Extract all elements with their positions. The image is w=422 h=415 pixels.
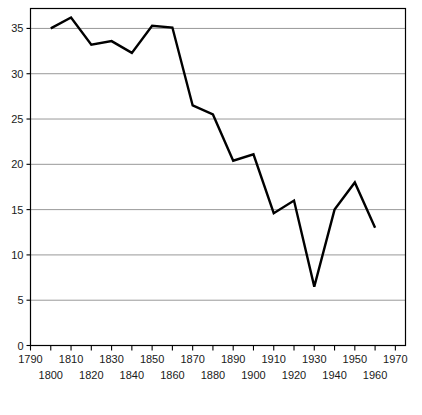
y-tick-label-10: 10 <box>11 249 23 261</box>
x-tick-label-1970: 1970 <box>383 353 407 365</box>
y-tick-label-25: 25 <box>11 113 23 125</box>
x-tick-label-1870: 1870 <box>180 353 204 365</box>
y-tick-label-35: 35 <box>11 22 23 34</box>
x-tick-label-1960: 1960 <box>363 369 387 381</box>
x-tick-label-1860: 1860 <box>160 369 184 381</box>
x-tick-label-1790: 1790 <box>18 353 42 365</box>
x-tick-label-1920: 1920 <box>282 369 306 381</box>
line-chart: 51015202530350 1790181018301850187018901… <box>0 0 422 415</box>
x-tick-label-1880: 1880 <box>201 369 225 381</box>
x-axis-tick-labels-upper-row: 1790181018301850187018901910193019501970 <box>18 353 407 365</box>
x-tick-label-1840: 1840 <box>120 369 144 381</box>
x-axis-tick-labels-lower-row: 180018201840186018801900192019401960 <box>39 369 388 381</box>
x-tick-label-1900: 1900 <box>241 369 265 381</box>
data-series-line <box>51 18 375 287</box>
x-tick-label-1800: 1800 <box>39 369 63 381</box>
y-tick-label-5: 5 <box>17 294 23 306</box>
y-tick-label-20: 20 <box>11 158 23 170</box>
x-tick-label-1890: 1890 <box>221 353 245 365</box>
y-axis-tick-labels: 51015202530350 <box>11 22 23 351</box>
x-tick-label-1930: 1930 <box>302 353 326 365</box>
x-tick-label-1830: 1830 <box>99 353 123 365</box>
x-tick-label-1940: 1940 <box>322 369 346 381</box>
y-tick-label-15: 15 <box>11 204 23 216</box>
x-tick-label-1810: 1810 <box>59 353 83 365</box>
y-tick-label-30: 30 <box>11 68 23 80</box>
x-tick-label-1910: 1910 <box>262 353 286 365</box>
x-tick-label-1820: 1820 <box>79 369 103 381</box>
x-tick-label-1950: 1950 <box>343 353 367 365</box>
series-1-line <box>51 18 375 287</box>
axis-frame <box>31 9 406 346</box>
y-tick-label-0: 0 <box>17 340 23 352</box>
x-axis-ticks <box>31 346 396 351</box>
plot-frame <box>31 9 406 346</box>
chart-canvas: 51015202530350 1790181018301850187018901… <box>0 0 422 415</box>
x-tick-label-1850: 1850 <box>140 353 164 365</box>
gridlines-group <box>31 28 406 300</box>
